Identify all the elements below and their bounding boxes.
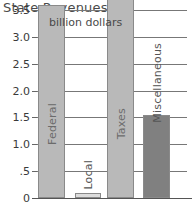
x-axis-baseline (32, 198, 192, 199)
y-tick-label-3-5: 3.5 (2, 4, 30, 17)
bar-label-federal: Federal (45, 103, 58, 145)
bar-taxes[interactable]: Taxes (107, 0, 134, 198)
plot-area: Federal Local Taxes Miscellaneous (32, 10, 187, 198)
tick-mark-2-0 (32, 91, 37, 92)
tick-mark-1-5 (32, 117, 37, 118)
y-tick-label-2-5: 2.5 (2, 57, 30, 70)
bar-federal[interactable]: Federal (38, 5, 65, 198)
tick-mark-1-0 (32, 144, 37, 145)
y-tick-label-3-0: 3.0 (2, 30, 30, 43)
bar-miscellaneous[interactable]: Miscellaneous (143, 115, 170, 198)
y-axis: 3.5 3.0 2.5 2.0 1.5 1.0 .5 0 (0, 10, 30, 198)
y-tick-label-0: 0 (2, 192, 30, 205)
y-tick-label-2-0: 2.0 (2, 84, 30, 97)
tick-mark-2-5 (32, 64, 37, 65)
bar-chart: State Revenues billion dollars 3.5 3.0 2… (0, 0, 193, 211)
y-tick-label-1-0: 1.0 (2, 138, 30, 151)
tick-mark-3-5 (32, 10, 37, 11)
y-tick-label-0-5: .5 (2, 165, 30, 178)
bar-label-miscellaneous: Miscellaneous (150, 43, 163, 123)
bar-label-taxes: Taxes (114, 108, 127, 139)
y-tick-label-1-5: 1.5 (2, 111, 30, 124)
chart-subtitle-units: billion dollars (49, 16, 122, 29)
tick-mark-3-0 (32, 37, 37, 38)
bar-label-local: Local (82, 160, 95, 190)
tick-mark-0-5 (32, 171, 37, 172)
